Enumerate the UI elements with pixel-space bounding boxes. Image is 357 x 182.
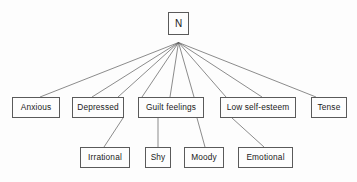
edge-hub-to-lowself-left — [179, 43, 227, 98]
node-anxious[interactable]: Anxious — [12, 97, 60, 118]
edge-hub-to-depressed-left — [92, 43, 179, 98]
edge-hub-to-guilt-right — [179, 43, 195, 98]
node-shy-label: Shy — [151, 153, 166, 161]
node-guilt-feelings[interactable]: Guilt feelings — [138, 97, 204, 118]
edge-depressed-to-irrational — [104, 118, 123, 147]
node-irrational[interactable]: Irrational — [80, 147, 130, 168]
node-emotional[interactable]: Emotional — [238, 147, 293, 168]
edge-hub-to-depressed-right — [118, 43, 179, 98]
node-root-n[interactable]: N — [168, 12, 189, 35]
node-tense-label: Tense — [318, 103, 341, 111]
edge-low-self-esteem-to-emotional — [232, 118, 264, 147]
edge-guilt-feelings-to-moody — [197, 118, 205, 147]
edge-hub-to-guilt-mid — [170, 43, 179, 98]
edge-hub-to-tense — [179, 43, 317, 98]
node-low-self-esteem[interactable]: Low self-esteem — [220, 97, 296, 118]
node-root-n-label: N — [175, 19, 182, 29]
node-tense[interactable]: Tense — [311, 97, 347, 118]
node-depressed[interactable]: Depressed — [72, 97, 124, 118]
node-depressed-label: Depressed — [77, 103, 118, 111]
edge-hub-to-lowself-right — [179, 43, 263, 98]
node-moody-label: Moody — [191, 153, 217, 161]
node-anxious-label: Anxious — [21, 103, 52, 111]
node-guilt-feelings-label: Guilt feelings — [146, 103, 196, 111]
node-shy[interactable]: Shy — [145, 147, 171, 168]
diagram-canvas: N AnxiousDepressedGuilt feelingsLow self… — [0, 0, 357, 182]
edge-hub-to-anxious — [40, 43, 179, 98]
node-emotional-label: Emotional — [246, 153, 284, 161]
node-low-self-esteem-label: Low self-esteem — [227, 103, 290, 111]
node-moody[interactable]: Moody — [184, 147, 224, 168]
node-irrational-label: Irrational — [88, 153, 122, 161]
edge-hub-to-guilt-left — [142, 43, 179, 98]
